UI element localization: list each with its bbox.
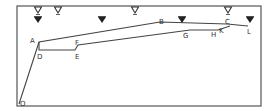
point-label-d: D	[37, 53, 42, 61]
lower-profile-line	[39, 26, 230, 50]
open-triangle-icon	[35, 7, 42, 13]
filled-triangle-icon	[98, 17, 106, 23]
point-label-b: B	[159, 18, 164, 26]
filled-triangle-icon	[246, 17, 254, 23]
point-label-h: H	[211, 31, 216, 39]
point-label-e: E	[75, 53, 79, 61]
point-label-c: C	[225, 18, 230, 26]
point-label-k: K	[219, 27, 224, 35]
point-label-o: O	[20, 100, 26, 108]
open-triangle-icon	[225, 7, 232, 13]
water-level-markers	[34, 7, 254, 23]
point-label-f: F	[75, 39, 79, 47]
open-triangle-icon	[132, 7, 139, 13]
point-label-l: L	[247, 28, 251, 36]
profile-diagram: OADEFBGHCKL	[0, 0, 274, 111]
point-label-a: A	[30, 37, 35, 45]
point-label-g: G	[183, 32, 188, 40]
open-triangle-icon	[55, 7, 62, 13]
point-labels: OADEFBGHCKL	[20, 18, 251, 108]
filled-triangle-icon	[34, 17, 42, 23]
